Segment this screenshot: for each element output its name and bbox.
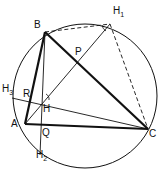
label-q: Q xyxy=(42,128,50,138)
altitude-a xyxy=(25,24,110,124)
label-r: R xyxy=(23,89,30,99)
label-p: P xyxy=(75,47,82,57)
label-a: A xyxy=(11,119,18,129)
side-bc xyxy=(45,32,148,129)
label-h3: H3 xyxy=(2,84,13,98)
label-h1: H1 xyxy=(113,6,124,20)
dashed-bh1 xyxy=(45,24,110,32)
geometry-figure xyxy=(0,0,164,174)
label-b: B xyxy=(34,20,41,30)
diagram: B H1 P R H3 H A Q H2 C xyxy=(0,0,164,174)
circumcircle xyxy=(13,24,157,168)
label-c: C xyxy=(149,129,156,139)
label-h2: H2 xyxy=(36,150,47,164)
dashed-h1c xyxy=(110,24,148,129)
label-h: H xyxy=(43,104,50,114)
